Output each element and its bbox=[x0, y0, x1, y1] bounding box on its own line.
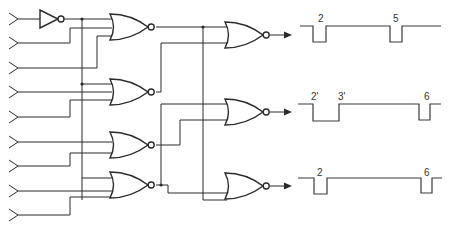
junction-dot bbox=[80, 82, 83, 85]
arrow-icon bbox=[284, 183, 292, 190]
input-chevron-icon bbox=[9, 185, 18, 197]
pulse-label: 5 bbox=[393, 13, 399, 24]
input-chevron-icon bbox=[9, 86, 18, 98]
input-chevron-icon bbox=[9, 111, 18, 123]
junction-dot bbox=[201, 25, 204, 28]
input-chevron-icon bbox=[9, 37, 18, 49]
pulse-label: 2 bbox=[317, 167, 323, 178]
waveform-output-3: 26 bbox=[298, 167, 442, 194]
nor-logic-diagram: 252'3'626 bbox=[0, 0, 451, 228]
arrow-icon bbox=[284, 109, 292, 116]
waveform-output-1: 25 bbox=[300, 13, 441, 42]
arrow-icon bbox=[284, 32, 292, 39]
timing-waveforms: 252'3'626 bbox=[298, 13, 442, 194]
nor-gate-G1 bbox=[110, 14, 154, 40]
input-chevron-icon bbox=[9, 160, 18, 172]
pulse-label: 2 bbox=[318, 13, 324, 24]
input-chevron-icon bbox=[9, 62, 18, 74]
nor-gate-H3 bbox=[225, 173, 269, 199]
input-chevron-icon bbox=[9, 136, 18, 148]
pulse-label: 6 bbox=[424, 167, 430, 178]
waveform-output-2: 2'3'6 bbox=[298, 91, 441, 121]
inverter-gate bbox=[40, 10, 64, 28]
input-terminals bbox=[9, 13, 18, 221]
pulse-label: 2' bbox=[311, 91, 319, 102]
input-chevron-icon bbox=[9, 209, 18, 221]
nor-gate-H1 bbox=[225, 22, 269, 48]
input-chevron-icon bbox=[9, 13, 18, 25]
nor-gate-H2 bbox=[225, 99, 269, 125]
first-stage-nor-gates bbox=[110, 14, 154, 198]
junction-dot bbox=[80, 17, 83, 20]
pulse-label: 6 bbox=[424, 91, 430, 102]
nor-gate-G2 bbox=[110, 79, 154, 105]
pulse-label: 3' bbox=[338, 91, 346, 102]
second-stage-nor-gates bbox=[225, 22, 269, 199]
nor-gate-G3 bbox=[110, 132, 154, 158]
nor-gate-G4 bbox=[110, 172, 154, 198]
junction-dot bbox=[159, 183, 162, 186]
